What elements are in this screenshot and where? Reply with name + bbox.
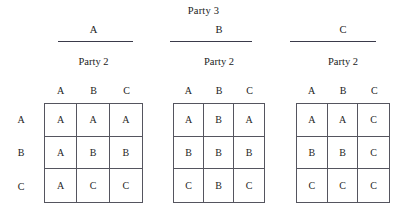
matrix-cell: C — [234, 169, 264, 202]
column-header-row-c: A B C — [296, 85, 390, 96]
matrix-cell: A — [297, 104, 328, 137]
matrix-cell: A — [45, 169, 77, 202]
matrix-cell: A — [328, 104, 359, 137]
matrix-cell: C — [174, 169, 204, 202]
row-label-axis: A B C — [8, 103, 34, 203]
matrix-grid-a: A A A A B B A C C — [44, 103, 143, 203]
matrix-cell: B — [328, 137, 359, 170]
matrix-cell: B — [204, 169, 234, 202]
matrix-cell: C — [77, 169, 109, 202]
matrix-cell: C — [328, 169, 359, 202]
matrix-cell: A — [234, 104, 264, 137]
row-label-2: C — [8, 170, 34, 203]
matrix-cell: A — [45, 104, 77, 137]
payoff-matrix-figure: Party 3 A B C A Party 2 A B C A A A A B … — [0, 0, 407, 214]
matrix-cell: B — [204, 104, 234, 137]
figure-title: Party 3 — [0, 5, 407, 16]
party2-label-c: Party 2 — [296, 56, 390, 67]
matrix-cell: B — [234, 137, 264, 170]
column-header-c-2: C — [359, 85, 390, 96]
column-header-row-b: A B C — [173, 85, 265, 96]
column-header-c-1: B — [327, 85, 358, 96]
column-header-a-2: C — [110, 85, 143, 96]
column-header-row-a: A B C — [44, 85, 143, 96]
matrix-cell: A — [110, 104, 142, 137]
matrix-cell: A — [174, 104, 204, 137]
matrix-cell: B — [110, 137, 142, 170]
matrix-cell: C — [358, 104, 389, 137]
matrix-cell: A — [45, 137, 77, 170]
matrix-cell: C — [358, 137, 389, 170]
matrix-cell: B — [77, 137, 109, 170]
matrix-cell: C — [358, 169, 389, 202]
party3-rule-a — [58, 41, 133, 42]
column-header-a-1: B — [77, 85, 110, 96]
matrix-cell: B — [204, 137, 234, 170]
matrix-cell: B — [297, 137, 328, 170]
party3-rule-b — [170, 41, 252, 42]
matrix-cell: C — [297, 169, 328, 202]
column-header-c-0: A — [296, 85, 327, 96]
matrix-cell: B — [174, 137, 204, 170]
matrix-cell: C — [110, 169, 142, 202]
party3-rule-c — [290, 41, 376, 42]
row-label-1: B — [8, 136, 34, 169]
matrix-grid-b: A B A B B B C B C — [173, 103, 265, 203]
row-label-0: A — [8, 103, 34, 136]
party3-strategy-label-b: B — [173, 24, 265, 35]
party2-label-b: Party 2 — [173, 56, 265, 67]
column-header-b-2: C — [234, 85, 265, 96]
column-header-b-0: A — [173, 85, 204, 96]
matrix-cell: A — [77, 104, 109, 137]
column-header-b-1: B — [204, 85, 235, 96]
party3-strategy-label-c: C — [296, 24, 390, 35]
party2-label-a: Party 2 — [44, 56, 143, 67]
column-header-a-0: A — [44, 85, 77, 96]
party3-strategy-label-a: A — [44, 24, 143, 35]
matrix-grid-c: A A C B B C C C C — [296, 103, 390, 203]
